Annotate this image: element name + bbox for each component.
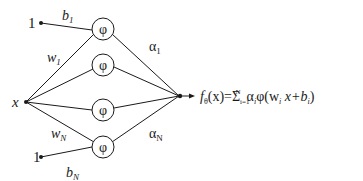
activation-label-3: φ: [99, 103, 107, 118]
output-arrow-icon: [189, 94, 195, 99]
bias-top-label: b1: [62, 8, 74, 25]
alpha-top-label: α1: [149, 39, 161, 56]
activation-label-2: φ: [99, 58, 107, 73]
input-label: x: [11, 94, 19, 110]
activation-label-1: φ: [99, 22, 107, 37]
bias-node-top: [39, 21, 43, 25]
hidden-units: [92, 18, 114, 158]
neural-network-diagram: φ φ φ φ 1 1 x b1 bN w1 wN α1 αN fθ(x)=Σi…: [0, 0, 363, 181]
bias-input-top-label: 1: [28, 15, 36, 31]
weight-bottom-label: wN: [51, 126, 67, 143]
output-formula: fθ(x)=Σi=1Nαiφ(wi x+bi): [200, 88, 315, 106]
weight-top-label: w1: [47, 50, 61, 67]
bias-input-bottom-label: 1: [33, 149, 41, 165]
output-node: [178, 94, 182, 98]
activation-label-4: φ: [99, 140, 107, 155]
input-node: [24, 100, 28, 104]
alpha-bottom-label: αN: [149, 126, 163, 143]
bias-bottom-label: bN: [66, 165, 80, 181]
